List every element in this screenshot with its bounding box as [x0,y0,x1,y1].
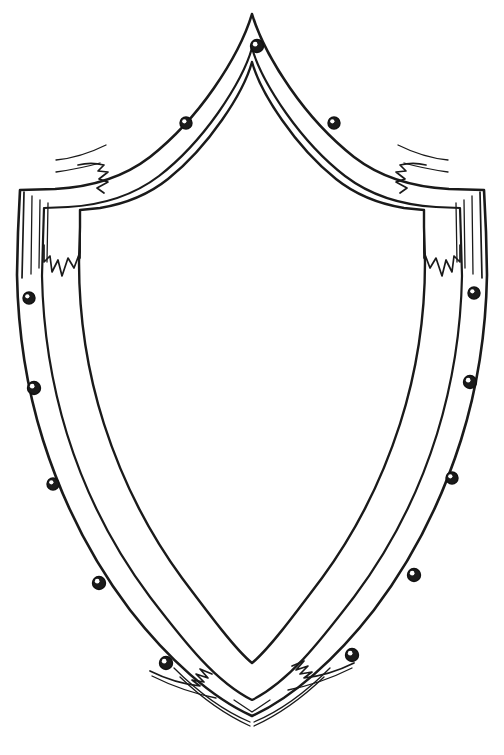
rivet-left-5 [160,657,173,670]
rivet-upper-left [180,117,192,129]
shield-artboard [0,0,504,755]
rivet-right-1 [468,287,480,299]
rivet-apex [251,40,264,53]
rivet-upper-right [328,117,340,129]
rivet-left-4 [93,577,106,590]
rivet-right-2 [464,376,477,389]
rivet-left-2 [28,382,41,395]
shield-drawing [0,0,504,755]
canvas-background [0,0,504,755]
rivet-right-5 [346,649,359,662]
rivet-left-1 [23,292,35,304]
rivet-right-4 [408,569,421,582]
rivet-left-3 [47,478,59,490]
rivet-right-3 [446,472,458,484]
